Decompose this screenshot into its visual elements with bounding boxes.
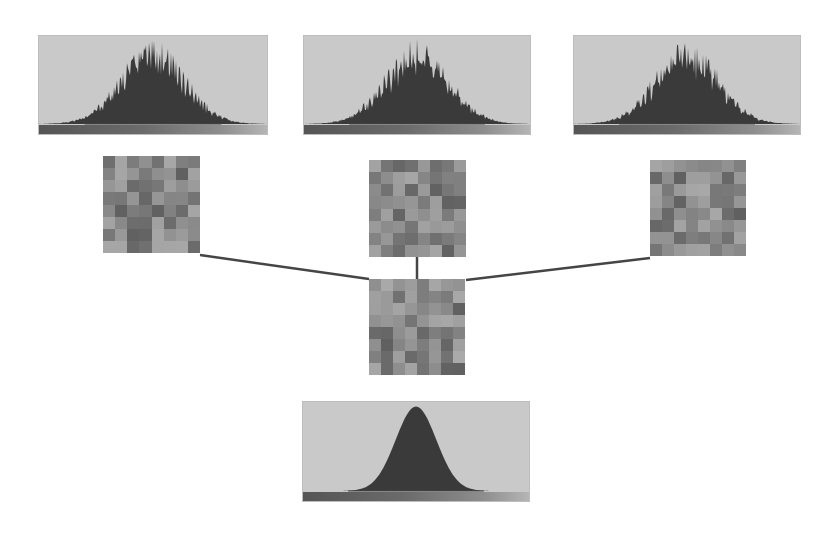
pixel-cell	[127, 192, 139, 204]
pixel-cell	[650, 172, 662, 184]
pixel-cell	[139, 168, 151, 180]
pixel-cell	[429, 339, 441, 351]
pixel-cell	[115, 205, 127, 217]
pixel-cell	[430, 233, 442, 245]
pixel-cell	[127, 168, 139, 180]
pixel-cell	[369, 363, 381, 375]
pixel-cell	[418, 221, 430, 233]
pixel-cell	[441, 303, 453, 315]
pixel-cell	[369, 221, 381, 233]
pixel-cell	[139, 229, 151, 241]
pixel-cell	[430, 172, 442, 184]
pixel-cell	[417, 279, 429, 291]
pixel-cell	[453, 303, 465, 315]
pixel-cell	[722, 172, 734, 184]
pixel-cell	[127, 217, 139, 229]
pixel-cell	[686, 196, 698, 208]
pixel-cell	[722, 184, 734, 196]
colorbar	[574, 125, 800, 134]
pixel-cell	[393, 279, 405, 291]
pixel-cell	[164, 180, 176, 192]
pixel-patch-middle	[369, 160, 466, 257]
pixel-cell	[722, 196, 734, 208]
pixel-cell	[686, 208, 698, 220]
pixel-cell	[405, 233, 417, 245]
pixel-cell	[442, 160, 454, 172]
pixel-cell	[381, 351, 393, 363]
pixel-cell	[662, 220, 674, 232]
pixel-cell	[369, 233, 381, 245]
pixel-cell	[698, 220, 710, 232]
pixel-cell	[405, 160, 417, 172]
pixel-cell	[188, 217, 200, 229]
pixel-cell	[734, 244, 746, 256]
pixel-patch-right	[650, 160, 746, 256]
pixel-cell	[686, 232, 698, 244]
pixel-cell	[381, 160, 393, 172]
pixel-cell	[417, 327, 429, 339]
pixel-cell	[650, 232, 662, 244]
pixel-cell	[393, 160, 405, 172]
pixel-cell	[454, 245, 466, 257]
pixel-cell	[441, 339, 453, 351]
pixel-cell	[710, 196, 722, 208]
pixel-cell	[662, 244, 674, 256]
pixel-cell	[454, 221, 466, 233]
pixel-cell	[405, 327, 417, 339]
pixel-cell	[369, 209, 381, 221]
pixel-cell	[393, 351, 405, 363]
pixel-cell	[441, 315, 453, 327]
pixel-cell	[405, 291, 417, 303]
pixel-cell	[139, 205, 151, 217]
pixel-cell	[152, 192, 164, 204]
pixel-cell	[188, 229, 200, 241]
pixel-cell	[152, 205, 164, 217]
pixel-cell	[430, 245, 442, 257]
pixel-cell	[405, 339, 417, 351]
pixel-cell	[734, 232, 746, 244]
pixel-cell	[393, 303, 405, 315]
pixel-cell	[650, 184, 662, 196]
pixel-cell	[454, 172, 466, 184]
pixel-cell	[381, 279, 393, 291]
pixel-cell	[453, 315, 465, 327]
pixel-cell	[686, 220, 698, 232]
pixel-cell	[454, 184, 466, 196]
pixel-cell	[369, 315, 381, 327]
pixel-cell	[405, 245, 417, 257]
pixel-cell	[152, 180, 164, 192]
pixel-cell	[139, 180, 151, 192]
pixel-cell	[453, 363, 465, 375]
pixel-cell	[393, 291, 405, 303]
histogram-input-3	[573, 35, 801, 135]
pixel-cell	[127, 229, 139, 241]
pixel-cell	[674, 244, 686, 256]
pixel-cell	[369, 351, 381, 363]
pixel-cell	[453, 351, 465, 363]
pixel-cell	[686, 172, 698, 184]
pixel-cell	[430, 209, 442, 221]
pixel-cell	[418, 172, 430, 184]
pixel-cell	[417, 291, 429, 303]
pixel-cell	[188, 180, 200, 192]
pixel-cell	[369, 196, 381, 208]
pixel-cell	[454, 196, 466, 208]
pixel-cell	[405, 315, 417, 327]
pixel-cell	[176, 168, 188, 180]
pixel-cell	[430, 160, 442, 172]
pixel-cell	[405, 279, 417, 291]
pixel-cell	[453, 279, 465, 291]
pixel-cell	[115, 217, 127, 229]
pixel-cell	[393, 339, 405, 351]
pixel-cell	[454, 160, 466, 172]
pixel-cell	[698, 244, 710, 256]
pixel-patch-left	[103, 156, 200, 253]
pixel-cell	[734, 160, 746, 172]
pixel-cell	[381, 303, 393, 315]
pixel-cell	[662, 232, 674, 244]
pixel-cell	[418, 196, 430, 208]
pixel-cell	[393, 315, 405, 327]
pixel-cell	[115, 241, 127, 253]
pixel-cell	[710, 220, 722, 232]
pixel-cell	[650, 244, 662, 256]
